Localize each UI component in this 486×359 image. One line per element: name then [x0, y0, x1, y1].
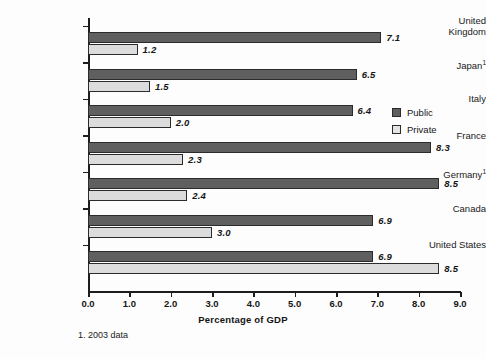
bar-public — [88, 105, 353, 116]
bar-value-private: 1.2 — [143, 44, 157, 55]
legend-swatch-public-icon — [392, 108, 401, 117]
x-axis-tick — [171, 292, 173, 297]
legend-label-public: Public — [407, 107, 433, 118]
bar-private — [88, 117, 171, 128]
bar-private — [88, 190, 187, 201]
x-axis-tick — [253, 292, 255, 297]
chart-footnote: 1. 2003 data — [78, 330, 128, 340]
x-axis-tick — [129, 292, 131, 297]
y-axis-tick — [83, 99, 89, 101]
bar-value-private: 2.0 — [176, 117, 190, 128]
category-label: Japan1 — [406, 57, 486, 71]
category-label: Germany1 — [406, 166, 486, 180]
plot-area: 7.11.26.51.56.42.08.32.38.52.46.93.06.98… — [88, 18, 460, 290]
legend-item-private[interactable]: Private — [392, 123, 437, 135]
bar-public — [88, 215, 373, 226]
x-axis-tick-label: 1.0 — [123, 298, 136, 309]
category-footnote-marker: 1 — [482, 59, 486, 66]
y-axis-tick — [83, 208, 89, 210]
x-axis-tick-label: 2.0 — [164, 298, 177, 309]
category-label: United States — [406, 239, 486, 250]
x-axis-tick — [88, 292, 90, 297]
legend-swatch-private-icon — [392, 125, 401, 134]
category-label: UnitedKingdom — [406, 15, 486, 37]
y-axis-tick — [83, 26, 89, 28]
category-label: Italy — [406, 93, 486, 104]
bar-value-public: 8.3 — [436, 142, 450, 153]
category-footnote-marker: 1 — [482, 168, 486, 175]
x-axis-tick — [377, 292, 379, 297]
y-axis-tick — [83, 135, 89, 137]
x-axis-line — [88, 291, 461, 293]
bar-value-public: 6.5 — [362, 69, 376, 80]
bar-value-public: 7.1 — [386, 32, 400, 43]
bar-chart: 7.11.26.51.56.42.08.32.38.52.46.93.06.98… — [0, 0, 486, 359]
x-axis-tick — [460, 292, 462, 297]
x-axis-tick — [295, 292, 297, 297]
category-label: Canada — [406, 203, 486, 214]
x-axis-tick-label: 6.0 — [329, 298, 342, 309]
bar-private — [88, 44, 138, 55]
bar-value-public: 6.4 — [358, 105, 372, 116]
chart-legend: Public Private — [392, 106, 437, 140]
bar-value-private: 3.0 — [217, 227, 231, 238]
x-axis-tick-label: 0.0 — [81, 298, 94, 309]
x-axis-tick — [419, 292, 421, 297]
x-axis-tick-label: 8.0 — [412, 298, 425, 309]
bar-private — [88, 227, 212, 238]
bar-value-private: 8.5 — [444, 263, 458, 274]
y-axis-tick — [83, 245, 89, 247]
bar-public — [88, 69, 357, 80]
x-axis-tick — [212, 292, 214, 297]
x-axis-tick-label: 3.0 — [205, 298, 218, 309]
bar-value-private: 2.4 — [192, 190, 206, 201]
y-axis-tick — [83, 172, 89, 174]
legend-label-private: Private — [407, 124, 437, 135]
x-axis-tick-label: 7.0 — [371, 298, 384, 309]
bar-public — [88, 251, 373, 262]
bar-value-public: 6.9 — [378, 251, 392, 262]
bar-value-private: 1.5 — [155, 81, 169, 92]
x-axis-tick-label: 9.0 — [453, 298, 466, 309]
bar-value-public: 6.9 — [378, 215, 392, 226]
x-axis-tick — [336, 292, 338, 297]
bar-public — [88, 32, 381, 43]
bar-private — [88, 81, 150, 92]
bar-private — [88, 263, 439, 274]
x-axis-tick-label: 5.0 — [288, 298, 301, 309]
y-axis-tick — [83, 62, 89, 64]
x-axis-title: Percentage of GDP — [0, 314, 486, 325]
bar-public — [88, 142, 431, 153]
legend-item-public[interactable]: Public — [392, 106, 437, 118]
bar-public — [88, 178, 439, 189]
bar-value-private: 2.3 — [188, 154, 202, 165]
x-axis-tick-label: 4.0 — [247, 298, 260, 309]
bar-private — [88, 154, 183, 165]
